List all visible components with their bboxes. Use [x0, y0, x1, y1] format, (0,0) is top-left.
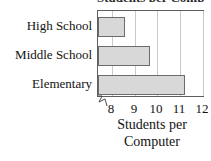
bar-middle-school	[98, 46, 150, 66]
x-axis-title-line-2: Computer	[96, 133, 208, 150]
category-label-elementary: Elementary	[32, 77, 92, 91]
chart-title: Students per Computer	[97, 0, 204, 2]
x-tick-label-8: 8	[108, 101, 115, 116]
bar-high-school	[98, 17, 125, 37]
category-axis-labels: High School Middle School Elementary	[0, 10, 95, 97]
x-axis-tick-labels: 89101112	[97, 101, 211, 116]
x-tick-label-9: 9	[131, 101, 138, 116]
category-label-high-school: High School	[27, 19, 92, 33]
x-tick-label-11: 11	[173, 101, 186, 116]
x-axis-title-line-1: Students per	[96, 116, 208, 133]
chart-screenshot: Students per Computer High School Middle…	[0, 0, 211, 161]
gridline-12	[203, 11, 204, 96]
x-tick-label-12: 12	[196, 101, 209, 116]
category-label-middle-school: Middle School	[15, 48, 92, 62]
plot-area	[97, 10, 204, 97]
bar-elementary	[98, 75, 185, 95]
x-axis-title: Students per Computer	[96, 116, 208, 150]
x-tick-label-10: 10	[150, 101, 163, 116]
